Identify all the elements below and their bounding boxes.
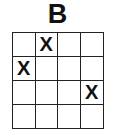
grid-cell: X	[13, 57, 36, 81]
grid-cell	[13, 105, 36, 128]
grid-cell	[81, 57, 104, 81]
grid-cell	[13, 33, 36, 57]
grid-cell	[36, 105, 59, 128]
grid-cell	[58, 57, 81, 81]
grid-cell	[81, 105, 104, 128]
grid-cell	[58, 33, 81, 57]
grid-cell: X	[36, 33, 59, 57]
grid-title: B	[0, 0, 115, 28]
grid-cell	[13, 81, 36, 105]
grid-cell	[58, 105, 81, 128]
grid: X X X	[12, 32, 104, 129]
grid-cell: X	[81, 81, 104, 105]
grid-cell	[36, 81, 59, 105]
grid-cell	[81, 33, 104, 57]
grid-cell	[58, 81, 81, 105]
grid-cell	[36, 57, 59, 81]
